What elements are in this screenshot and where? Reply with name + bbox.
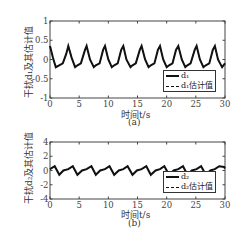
svg-text:-2: -2: [40, 180, 48, 190]
svg-text:-1: -1: [40, 93, 48, 103]
dashed-line-swatch: [166, 86, 179, 87]
legend-label: d₂估计值: [181, 182, 213, 192]
legend-item-d2: d₂: [166, 172, 213, 182]
svg-text:5: 5: [76, 99, 81, 109]
legend-item-d2-estimate: d₂估计值: [166, 182, 213, 192]
svg-text:2: 2: [43, 151, 48, 161]
plot-a-legend: d₁ d₁估计值: [163, 70, 216, 92]
legend-item-d1-estimate: d₁估计值: [166, 81, 213, 91]
svg-text:10: 10: [103, 99, 114, 109]
svg-text:25: 25: [190, 200, 201, 210]
plot-b-legend: d₂ d₂估计值: [163, 171, 216, 193]
svg-text:0: 0: [43, 55, 48, 65]
solid-line-swatch: [166, 75, 179, 77]
svg-text:30: 30: [220, 200, 231, 210]
svg-text:4: 4: [43, 137, 48, 147]
svg-text:0: 0: [43, 166, 48, 176]
legend-item-d1: d₁: [166, 71, 213, 81]
svg-text:30: 30: [220, 99, 231, 109]
plot-b-caption: (b): [128, 218, 141, 228]
svg-text:10: 10: [103, 200, 114, 210]
panel-b: 051015202530-4-2024 干扰d₂及其估计值 时间t/s (b) …: [0, 121, 242, 242]
svg-text:0.5: 0.5: [35, 35, 49, 45]
plot-a-svg: 051015202530-1-0.500.51: [0, 0, 242, 121]
svg-text:20: 20: [161, 200, 172, 210]
plot-b-ylabel: 干扰d₂及其估计值: [22, 132, 35, 204]
svg-text:1: 1: [43, 16, 48, 26]
solid-line-swatch: [166, 176, 179, 178]
svg-text:-4: -4: [40, 194, 48, 204]
dashed-line-swatch: [166, 187, 179, 188]
svg-text:5: 5: [76, 200, 81, 210]
legend-label: d₁估计值: [181, 81, 213, 91]
svg-text:25: 25: [190, 99, 201, 109]
legend-label: d₂: [181, 172, 189, 182]
plot-a-ylabel: 干扰d₁及其估计值: [22, 26, 35, 98]
svg-text:20: 20: [161, 99, 172, 109]
legend-label: d₁: [181, 71, 189, 81]
panel-a: 051015202530-1-0.500.51 干扰d₁及其估计值 时间t/s …: [0, 0, 242, 121]
